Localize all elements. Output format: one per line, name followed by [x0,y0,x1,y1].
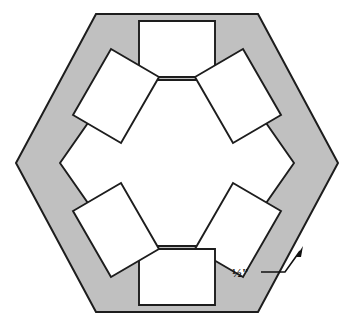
patch-top [139,21,215,77]
hexagon-pattern-figure: Hexagon patchwork pattern diagram Gray h… [0,0,353,326]
patch-bottom [139,249,215,305]
pattern-diagram-svg: Hexagon patchwork pattern diagram Gray h… [0,0,353,326]
seam-allowance-label: ½" [232,265,249,280]
